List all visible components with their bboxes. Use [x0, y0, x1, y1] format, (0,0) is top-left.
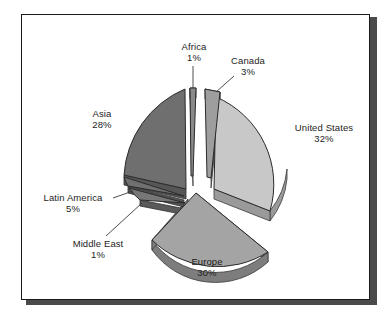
- label-africa-name: Africa: [168, 41, 220, 52]
- chart-page: Africa 1% Canada 3% United States 32% As…: [0, 0, 391, 325]
- label-united-states: United States 32%: [282, 122, 366, 144]
- label-europe-percent: 30%: [181, 267, 233, 278]
- label-latin-america: Latin America 5%: [33, 192, 113, 214]
- label-latin-america-percent: 5%: [33, 203, 113, 214]
- label-africa-percent: 1%: [168, 52, 220, 63]
- label-europe: Europe 30%: [181, 256, 233, 278]
- label-united-states-percent: 32%: [282, 133, 366, 144]
- slice-africa: [190, 88, 196, 176]
- label-asia-percent: 28%: [78, 119, 126, 130]
- label-africa: Africa 1%: [168, 41, 220, 63]
- label-united-states-name: United States: [282, 122, 366, 133]
- label-canada: Canada 3%: [218, 55, 278, 77]
- label-middle-east-name: Middle East: [62, 238, 134, 249]
- label-middle-east-percent: 1%: [62, 249, 134, 260]
- label-middle-east: Middle East 1%: [62, 238, 134, 260]
- slice-asia: [124, 89, 186, 189]
- label-latin-america-name: Latin America: [33, 192, 113, 203]
- label-canada-name: Canada: [218, 55, 278, 66]
- label-asia-name: Asia: [78, 108, 126, 119]
- leader-line-canada: [216, 76, 234, 92]
- pie-chart: Africa 1% Canada 3% United States 32% As…: [0, 0, 391, 325]
- leader-line-latin-america: [113, 191, 133, 198]
- label-europe-name: Europe: [181, 256, 233, 267]
- label-canada-percent: 3%: [218, 66, 278, 77]
- label-asia: Asia 28%: [78, 108, 126, 130]
